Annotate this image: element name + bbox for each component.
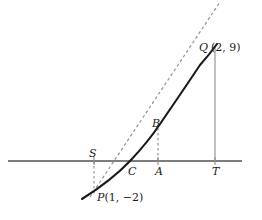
point-p-coords: (1, −2) xyxy=(104,191,143,204)
point-label-B: B xyxy=(152,118,160,129)
geometry-figure: Q B S C A T (2, 9) P(1, −2) xyxy=(0,0,262,220)
point-label-A: A xyxy=(155,166,163,177)
point-label-Q: Q xyxy=(199,42,208,53)
coordinate-label-q: (2, 9) xyxy=(211,42,241,53)
function-curve xyxy=(82,44,217,199)
point-label-S: S xyxy=(89,148,97,159)
figure-canvas xyxy=(0,0,262,220)
point-label-T: T xyxy=(212,166,219,177)
coordinate-label-p: P(1, −2) xyxy=(97,192,143,203)
point-label-C: C xyxy=(128,166,136,177)
